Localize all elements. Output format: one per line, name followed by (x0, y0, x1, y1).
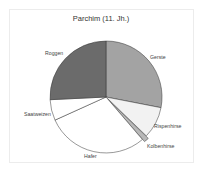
label-saatweizen: Saatweizen (24, 111, 51, 117)
label-gerste: Gerste (150, 54, 166, 60)
label-hafer: Hafer (84, 153, 97, 159)
label-rispenhirse: Rispenhirse (154, 123, 181, 129)
slice-gerste (106, 41, 162, 108)
label-roggen: Roggen (45, 50, 63, 56)
label-kolbenhirse: Kolbenhirse (147, 143, 174, 149)
